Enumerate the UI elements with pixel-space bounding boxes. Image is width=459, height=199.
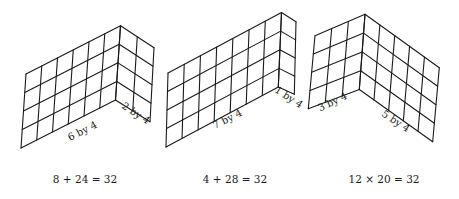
grid-row-line [364,33,438,86]
caption: 4 + 28 = 32 [203,173,267,185]
grid-row-line [312,52,363,72]
right-panel-grid [278,13,296,95]
grid-row-line [365,14,439,67]
caption: 12 × 20 = 32 [348,173,419,185]
left-panel-label: 7 by 4 [211,107,244,131]
grid-row-line [24,63,119,111]
grid-row-line [281,31,296,40]
caption: 8 + 24 = 32 [53,173,117,185]
grid-row-line [22,81,117,129]
grid-row-line [26,26,121,74]
figure-2: 7 by 4 1 by 4 4 + 28 = 32 [166,13,305,186]
grid-row-line [21,100,116,148]
right-panel-label: 1 by 4 [273,84,305,110]
grid-row-line [25,44,120,92]
grid-row-line [279,68,295,76]
figure-1: 6 by 4 2 by 4 8 + 24 = 32 [21,26,154,185]
folded-grids-diagram: 6 by 4 2 by 4 8 + 24 = 32 7 by 4 1 by 4 … [0,0,459,199]
figure-3: 3 by 4 5 by 4 12 × 20 = 32 [308,14,439,185]
grid-row-line [313,33,363,54]
grid-row-line [362,52,436,105]
right-panel-label: 2 by 4 [120,100,152,126]
grid-row-line [282,13,297,22]
left-panel-label: 3 by 4 [316,90,349,113]
grid-row-line [280,50,295,58]
grid-row-line [310,71,361,91]
right-panel-label: 5 by 4 [380,108,412,134]
grid-row-line [315,14,365,35]
